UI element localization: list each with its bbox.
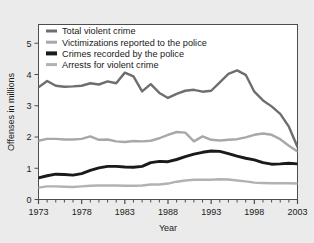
y-tick-label: 1 — [26, 164, 31, 174]
legend-label-1: Victimizations reported to the police — [62, 38, 207, 48]
y-tick-label: 5 — [26, 39, 31, 49]
legend-label-0: Total violent crime — [62, 26, 136, 36]
legend-label-3: Arrests for violent crime — [62, 60, 159, 70]
legend-label-2: Crimes recorded by the police — [62, 49, 184, 59]
y-tick-label: 3 — [26, 101, 31, 111]
x-tick-label: 1983 — [115, 207, 135, 217]
x-tick-label: 2003 — [287, 207, 307, 217]
x-tick-label: 1988 — [158, 207, 178, 217]
x-tick-label: 1993 — [201, 207, 221, 217]
y-axis-title: Offenses in millions — [6, 73, 16, 151]
y-tick-label: 2 — [26, 132, 31, 142]
line-chart: 012345 1973197819831988199319982003 Offe… — [0, 0, 314, 243]
x-tick-label: 1973 — [28, 207, 48, 217]
x-tick-label: 1998 — [244, 207, 264, 217]
x-tick-label: 1978 — [72, 207, 92, 217]
y-tick-label: 0 — [26, 195, 31, 205]
y-tick-label: 4 — [26, 70, 31, 80]
chart-figure: 012345 1973197819831988199319982003 Offe… — [0, 0, 314, 243]
x-axis-title: Year — [159, 223, 177, 233]
